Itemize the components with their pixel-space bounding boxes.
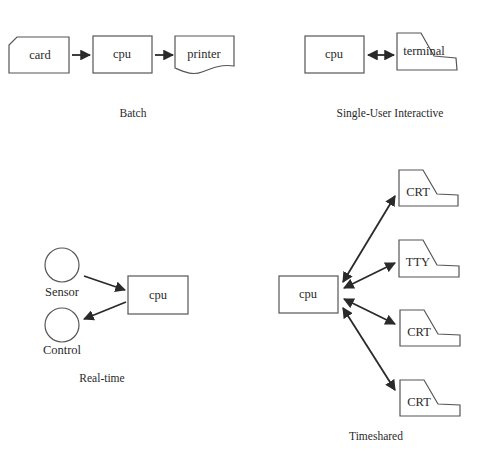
control-label: Control	[43, 343, 82, 357]
single-user-caption: Single-User Interactive	[337, 107, 444, 120]
cpu-crt1-bidirectional-arrow-icon	[343, 196, 395, 282]
crt-3-label: CRT	[407, 395, 431, 409]
crt-2-label: CRT	[407, 325, 431, 339]
sensor-label: Sensor	[45, 285, 80, 299]
timeshared-caption: Timeshared	[349, 430, 403, 442]
realtime-caption: Real-time	[79, 372, 124, 384]
batch-cpu-label: cpu	[113, 47, 132, 61]
realtime-cpu-node: cpu	[128, 276, 188, 314]
batch-caption: Batch	[120, 107, 147, 119]
batch-cpu-node: cpu	[93, 36, 152, 73]
printer-node: printer	[175, 36, 234, 73]
realtime-cpu-label: cpu	[149, 288, 168, 302]
crt-terminal-1: CRT	[399, 170, 458, 206]
terminal-label: terminal	[403, 44, 445, 58]
batch-section: card cpu printer Batch	[9, 36, 234, 119]
terminal-node: terminal	[397, 33, 457, 70]
printer-label: printer	[187, 47, 221, 61]
single-user-cpu-label: cpu	[325, 47, 344, 61]
timeshared-cpu-label: cpu	[299, 287, 318, 301]
card-label: card	[29, 48, 51, 62]
control-node: Control	[43, 308, 82, 357]
realtime-section: Sensor Control cpu Real-time	[43, 248, 188, 384]
crt-terminal-3: CRT	[400, 380, 460, 416]
timeshared-section: cpu CRT TTY CRT CRT Timeshared	[279, 170, 460, 442]
single-user-section: cpu terminal Single-User Interactive	[305, 33, 457, 120]
sensor-node: Sensor	[45, 248, 80, 299]
sensor-to-cpu-arrow-icon	[84, 276, 125, 290]
sensor-circle	[45, 248, 79, 282]
computing-modes-diagram: card cpu printer Batch cpu terminal Sing…	[0, 0, 479, 454]
tty-terminal: TTY	[399, 240, 459, 277]
crt-terminal-2: CRT	[400, 310, 460, 346]
control-circle	[45, 308, 79, 342]
tty-label: TTY	[406, 255, 430, 269]
cpu-to-control-arrow-icon	[84, 302, 126, 319]
timeshared-cpu-node: cpu	[279, 276, 338, 313]
crt-1-label: CRT	[406, 185, 430, 199]
card-node: card	[9, 37, 69, 73]
single-user-cpu-node: cpu	[305, 36, 364, 73]
